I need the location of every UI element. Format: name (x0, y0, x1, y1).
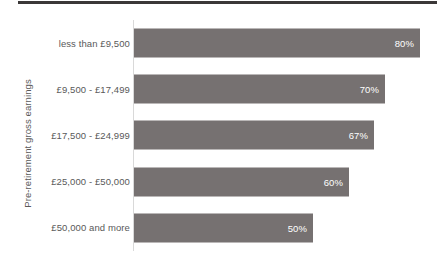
bar-value-label: 80% (395, 38, 414, 49)
bar-fill[interactable]: 80% (134, 29, 420, 58)
category-label: £25,000 - £50,000 (0, 176, 130, 187)
bar-track: 80% (134, 29, 420, 58)
bar-row: £50,000 and more 50% (0, 205, 437, 251)
bar-fill[interactable]: 67% (134, 121, 374, 150)
bar-track: 60% (134, 167, 349, 196)
category-label: less than £9,500 (0, 38, 130, 49)
category-label: £9,500 - £17,499 (0, 84, 130, 95)
bar-value-label: 50% (288, 222, 307, 233)
bar-fill[interactable]: 50% (134, 213, 313, 242)
bar-value-label: 67% (349, 130, 368, 141)
bar-row: less than £9,500 80% (0, 20, 437, 66)
bar-track: 70% (134, 75, 385, 104)
bar-chart: Pre-retirement gross earnings less than … (0, 0, 437, 266)
plot-area: less than £9,500 80% £9,500 - £17,499 70… (0, 20, 437, 251)
bar-row: £9,500 - £17,499 70% (0, 66, 437, 112)
bar-fill[interactable]: 60% (134, 167, 349, 196)
bar-row: £17,500 - £24,999 67% (0, 112, 437, 158)
bar-track: 50% (134, 213, 313, 242)
category-label: £17,500 - £24,999 (0, 130, 130, 141)
bar-track: 67% (134, 121, 374, 150)
category-label: £50,000 and more (0, 222, 130, 233)
bar-fill[interactable]: 70% (134, 75, 385, 104)
bar-value-label: 70% (360, 84, 379, 95)
bar-value-label: 60% (324, 176, 343, 187)
top-divider-rule (18, 1, 437, 4)
bar-row: £25,000 - £50,000 60% (0, 159, 437, 205)
